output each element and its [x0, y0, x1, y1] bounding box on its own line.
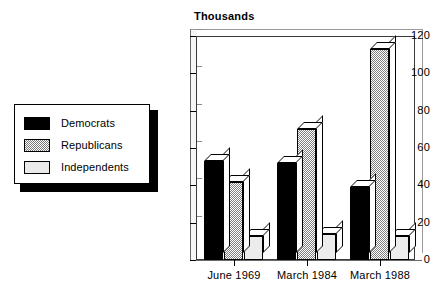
- legend-box: Democrats Republicans Independents: [14, 104, 150, 184]
- legend: Democrats Republicans Independents: [14, 104, 152, 186]
- y-tick-mark-depth: [197, 66, 202, 67]
- x-category-label: June 1969: [196, 269, 272, 281]
- y-tick-mark: [190, 148, 196, 149]
- y-tick-mark: [190, 111, 196, 112]
- y-tick-mark-depth: [197, 104, 202, 105]
- y-tick-mark-depth: [197, 216, 202, 217]
- legend-label-democrats: Democrats: [61, 117, 115, 130]
- y-tick-mark: [190, 36, 196, 37]
- y-tick-mark: [190, 260, 196, 261]
- y-tick-mark: [190, 185, 196, 186]
- y-tick-label: 40: [396, 179, 430, 190]
- legend-swatch-republicans-icon: [24, 139, 50, 152]
- legend-swatch-democrats-icon: [24, 117, 50, 130]
- y-tick-mark-depth: [197, 141, 202, 142]
- y-tick-label: 120: [396, 30, 430, 41]
- y-tick-label: 80: [396, 105, 430, 116]
- bar-democrats-june-1969: [204, 161, 223, 260]
- bar-side-face: [316, 115, 323, 253]
- axis-floor: [190, 260, 422, 261]
- x-tick-mark: [307, 260, 308, 266]
- legend-label-independents: Independents: [61, 161, 129, 174]
- plot-frame-depth-top: [196, 29, 422, 30]
- y-tick-mark-depth: [197, 178, 202, 179]
- bar-democrats-march-1984: [277, 163, 296, 260]
- legend-item-independents: Independents: [24, 156, 149, 178]
- bar-democrats-march-1988: [350, 187, 369, 260]
- bar-side-face: [389, 35, 396, 253]
- legend-label-republicans: Republicans: [61, 139, 123, 152]
- y-tick-label: 100: [396, 67, 430, 78]
- bar-chart: Thousands 020406080100120 June 1969March…: [152, 8, 430, 283]
- y-tick-mark: [190, 223, 196, 224]
- x-category-label: March 1988: [342, 269, 418, 281]
- y-tick-mark-depth: [197, 29, 202, 30]
- x-category-label: March 1984: [269, 269, 345, 281]
- legend-item-republicans: Republicans: [24, 134, 149, 156]
- bar-side-face: [296, 149, 303, 253]
- x-tick-mark: [380, 260, 381, 266]
- bar-side-face: [223, 147, 230, 253]
- y-axis-unit-label: Thousands: [194, 10, 254, 22]
- legend-item-democrats: Democrats: [24, 112, 149, 134]
- legend-swatch-independents-icon: [24, 161, 50, 174]
- y-tick-mark: [190, 73, 196, 74]
- x-tick-mark: [234, 260, 235, 266]
- y-tick-label: 60: [396, 142, 430, 153]
